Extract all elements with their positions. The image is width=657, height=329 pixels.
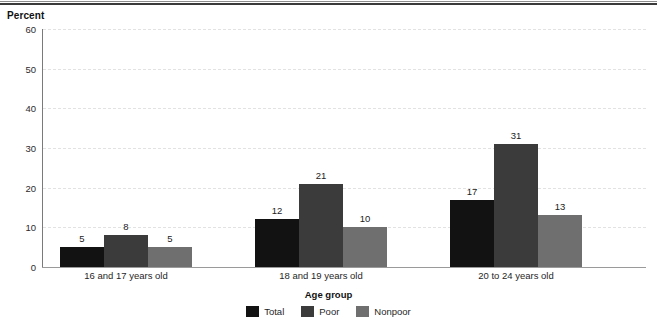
legend-item[interactable]: Total xyxy=(246,306,284,317)
chart-page: { "rules": { "present": true }, "axis": … xyxy=(0,0,657,329)
header-rule-thick xyxy=(0,3,657,5)
bar-group: 17311320 to 24 years old xyxy=(450,29,582,267)
x-axis-line xyxy=(42,267,646,268)
legend-label: Nonpoor xyxy=(374,306,410,317)
bar[interactable]: 5 xyxy=(148,247,192,267)
bar-value-label: 21 xyxy=(316,170,327,181)
x-axis-category-label: 16 and 17 years old xyxy=(84,270,167,281)
legend-item[interactable]: Poor xyxy=(301,306,339,317)
bar-value-label: 17 xyxy=(467,186,478,197)
y-axis-tick-label: 40 xyxy=(25,103,36,114)
bar-value-label: 5 xyxy=(167,233,172,244)
legend-swatch xyxy=(246,306,259,317)
legend-item[interactable]: Nonpoor xyxy=(356,306,410,317)
bar[interactable]: 13 xyxy=(538,215,582,267)
bar[interactable]: 17 xyxy=(450,200,494,267)
bar[interactable]: 5 xyxy=(60,247,104,267)
legend: TotalPoorNonpoor xyxy=(0,306,657,317)
y-axis-tick-label: 10 xyxy=(25,222,36,233)
legend-label: Poor xyxy=(319,306,339,317)
legend-swatch xyxy=(301,306,314,317)
legend-label: Total xyxy=(264,306,284,317)
x-axis-title: Age group xyxy=(0,289,657,300)
bar-value-label: 8 xyxy=(123,221,128,232)
plot-area: 0102030405060 58516 and 17 years old1221… xyxy=(43,29,646,267)
bar-group: 58516 and 17 years old xyxy=(60,29,192,267)
y-axis-title: Percent xyxy=(7,10,44,21)
header-rule-thin xyxy=(0,1,657,2)
y-axis-tick-label: 0 xyxy=(31,262,36,273)
bar[interactable]: 12 xyxy=(255,219,299,267)
bar-value-label: 12 xyxy=(272,205,283,216)
x-axis-category-label: 18 and 19 years old xyxy=(279,270,362,281)
y-axis-tick-label: 30 xyxy=(25,143,36,154)
bar[interactable]: 10 xyxy=(343,227,387,267)
y-axis-tick-label: 20 xyxy=(25,182,36,193)
x-axis-category-label: 20 to 24 years old xyxy=(478,270,554,281)
bar-value-label: 31 xyxy=(511,130,522,141)
bar[interactable]: 8 xyxy=(104,235,148,267)
bars-layer: 58516 and 17 years old12211018 and 19 ye… xyxy=(43,29,646,267)
bar[interactable]: 31 xyxy=(494,144,538,267)
y-axis-tick-label: 50 xyxy=(25,63,36,74)
legend-swatch xyxy=(356,306,369,317)
bar-group: 12211018 and 19 years old xyxy=(255,29,387,267)
bar-value-label: 13 xyxy=(555,201,566,212)
bar-value-label: 10 xyxy=(360,213,371,224)
bar-value-label: 5 xyxy=(79,233,84,244)
bar[interactable]: 21 xyxy=(299,184,343,267)
y-axis-tick-label: 60 xyxy=(25,24,36,35)
